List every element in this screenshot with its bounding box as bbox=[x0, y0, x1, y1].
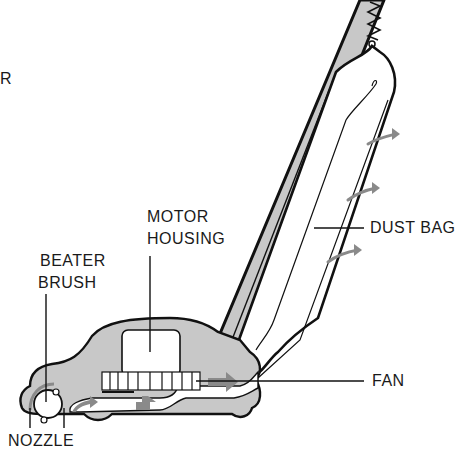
motor-housing-label-line2: HOUSING bbox=[147, 228, 225, 250]
fan bbox=[102, 372, 200, 392]
fan-label: FAN bbox=[372, 370, 405, 392]
nozzle-label: NOZZLE bbox=[8, 430, 74, 452]
dust-bag-label: DUST BAG bbox=[370, 217, 456, 239]
dust-bag bbox=[228, 46, 395, 378]
partial-label: R bbox=[0, 68, 12, 90]
motor-block bbox=[122, 330, 180, 376]
motor-housing-label-line1: MOTOR bbox=[147, 206, 209, 228]
vacuum-diagram: R MOTOR HOUSING BEATER BRUSH DUST BAG FA… bbox=[0, 0, 469, 459]
beater-brush-label-line1: BEATER bbox=[40, 250, 106, 272]
beater-brush-label-line2: BRUSH bbox=[38, 272, 97, 294]
